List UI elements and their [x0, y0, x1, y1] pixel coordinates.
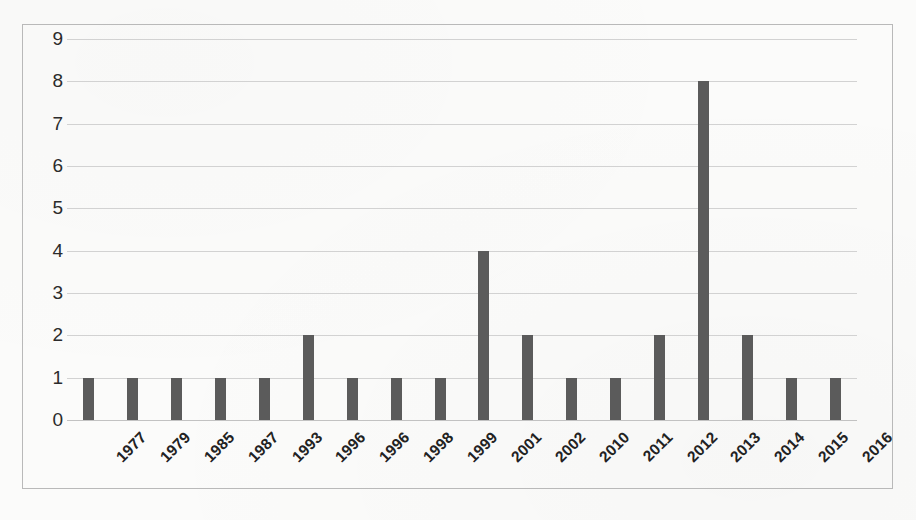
bar — [786, 378, 797, 420]
gridline-0 — [67, 420, 857, 421]
bar — [347, 378, 358, 420]
x-axis-tick-label: 1999 — [464, 429, 500, 465]
x-axis-tick-label: 1985 — [201, 429, 237, 465]
bars-layer — [67, 39, 857, 420]
y-axis-tick-label: 1 — [37, 368, 63, 387]
y-axis-tick-label: 5 — [37, 198, 63, 217]
x-axis-tick-label: 1993 — [289, 429, 325, 465]
x-axis-tick-label: 2014 — [772, 429, 808, 465]
x-axis-tick-label: 2001 — [508, 429, 544, 465]
y-axis-tick-label: 9 — [37, 29, 63, 48]
y-axis-tick-label: 2 — [37, 325, 63, 344]
x-axis-tick-label: 2015 — [815, 429, 851, 465]
bar — [259, 378, 270, 420]
y-axis-tick-label: 4 — [37, 241, 63, 260]
bar — [215, 378, 226, 420]
x-axis-tick-label: 1987 — [245, 429, 281, 465]
x-axis: 1977197919851987199319961996199819992001… — [67, 423, 857, 493]
chart-frame: 9876543210 19771979198519871993199619961… — [22, 24, 893, 489]
plot-area — [67, 39, 857, 420]
bar — [478, 251, 489, 420]
bar — [391, 378, 402, 420]
y-axis-tick-label: 6 — [37, 156, 63, 175]
bar — [303, 335, 314, 420]
x-axis-tick-label: 1996 — [333, 429, 369, 465]
y-axis-tick-label: 0 — [37, 410, 63, 429]
bar — [566, 378, 577, 420]
x-axis-tick-label: 1996 — [377, 429, 413, 465]
x-axis-tick-label: 2002 — [552, 429, 588, 465]
chart-plot-wrapper: 9876543210 19771979198519871993199619961… — [23, 25, 894, 490]
bar — [83, 378, 94, 420]
y-axis-tick-label: 8 — [37, 71, 63, 90]
y-axis: 9876543210 — [31, 25, 63, 490]
x-axis-tick-label: 2010 — [596, 429, 632, 465]
bar — [830, 378, 841, 420]
x-axis-tick-label: 2012 — [684, 429, 720, 465]
bar — [171, 378, 182, 420]
bar — [654, 335, 665, 420]
y-axis-tick-label: 7 — [37, 114, 63, 133]
bar — [522, 335, 533, 420]
x-axis-tick-label: 1979 — [157, 429, 193, 465]
bar — [698, 81, 709, 420]
bar — [127, 378, 138, 420]
x-axis-tick-label: 2013 — [728, 429, 764, 465]
bar — [435, 378, 446, 420]
bar — [610, 378, 621, 420]
x-axis-tick-label: 2016 — [859, 429, 895, 465]
bar — [742, 335, 753, 420]
x-axis-tick-label: 1977 — [113, 429, 149, 465]
x-axis-tick-label: 1998 — [420, 429, 456, 465]
x-axis-tick-label: 2011 — [640, 429, 676, 465]
y-axis-tick-label: 3 — [37, 283, 63, 302]
